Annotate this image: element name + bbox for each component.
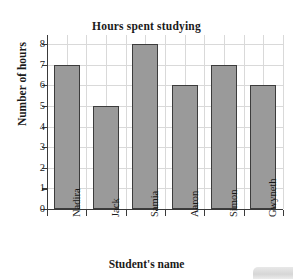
x-category-label-samia: Samia <box>149 191 160 217</box>
x-category-label-jack: Jack <box>110 198 121 217</box>
x-tick-mark-4 <box>204 210 205 216</box>
x-tick-mark-5 <box>244 210 245 216</box>
corner-artifact <box>253 267 293 279</box>
x-tick-mark-0 <box>47 210 48 216</box>
x-tick-mark-6 <box>283 210 284 216</box>
y-tick-label-7: 7 <box>25 60 45 70</box>
y-tick-label-2: 2 <box>25 163 45 173</box>
x-category-label-aaron: Aaron <box>189 191 200 217</box>
x-category-label-nadira: Nadira <box>71 188 82 217</box>
y-tick-labels: 012345678 <box>20 0 45 279</box>
y-tick-label-3: 3 <box>25 142 45 152</box>
x-tick-mark-3 <box>165 210 166 216</box>
y-tick-label-4: 4 <box>25 122 45 132</box>
x-category-label-simon: Simon <box>228 190 239 217</box>
y-tick-label-1: 1 <box>25 183 45 193</box>
x-category-label-gwyneth: Gwyneth <box>267 179 278 218</box>
y-tick-label-8: 8 <box>25 39 45 49</box>
x-tick-mark-1 <box>86 210 87 216</box>
y-tick-label-5: 5 <box>25 101 45 111</box>
bar-chart-figure: Hours spent studying Number of hours 012… <box>0 0 293 279</box>
y-tick-label-0: 0 <box>25 204 45 214</box>
x-axis-title: Student's name <box>0 258 293 270</box>
y-tick-label-6: 6 <box>25 80 45 90</box>
x-tick-mark-2 <box>126 210 127 216</box>
